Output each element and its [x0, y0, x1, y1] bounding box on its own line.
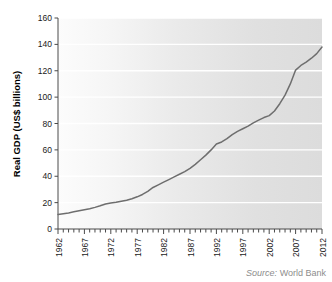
y-axis-tick-label: 60 [43, 145, 53, 155]
x-axis-tick-label: 1987 [186, 238, 196, 257]
y-axis-tick-label: 140 [38, 39, 52, 49]
y-axis-tick-labels: 020406080100120140160 [38, 13, 52, 234]
x-axis-minor-ticks [58, 229, 322, 234]
y-axis-tick-label: 160 [38, 13, 52, 23]
x-axis-tick-label: 2002 [265, 238, 275, 257]
y-axis-tick-label: 40 [43, 171, 53, 181]
x-axis-tick-label: 1977 [133, 238, 143, 257]
x-axis-tick-labels: 1962196719721977198219871992199720022007… [54, 238, 328, 257]
y-axis-tick-label: 20 [43, 198, 53, 208]
y-axis-title: Real GDP (US$ billions) [11, 71, 22, 177]
y-axis-tick-label: 80 [43, 119, 53, 129]
x-axis-tick-label: 2012 [318, 238, 328, 257]
y-axis-tick-label: 100 [38, 92, 52, 102]
x-axis-tick-label: 1997 [238, 238, 248, 257]
chart-canvas: 020406080100120140160 196219671972197719… [0, 0, 332, 282]
x-axis-tick-label: 1982 [159, 238, 169, 257]
y-axis-ticks [55, 18, 59, 229]
x-axis-tick-label: 2007 [291, 238, 301, 257]
x-axis-tick-label: 1972 [106, 238, 116, 257]
x-axis-tick-label: 1962 [54, 238, 64, 257]
x-axis-tick-label: 1967 [80, 238, 90, 257]
gdp-line-chart: 020406080100120140160 196219671972197719… [0, 0, 332, 282]
source-label: Source: [246, 268, 277, 278]
y-axis-tick-label: 120 [38, 66, 52, 76]
y-axis-tick-label: 0 [47, 224, 52, 234]
source-note: Source: World Bank [246, 268, 326, 278]
source-value: World Bank [280, 268, 326, 278]
x-axis-tick-label: 1992 [212, 238, 222, 257]
